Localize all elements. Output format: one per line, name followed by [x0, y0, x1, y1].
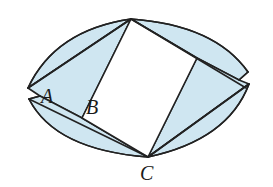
- label-B: B: [86, 96, 98, 118]
- geometry-figure: A B C: [0, 0, 273, 187]
- label-A: A: [39, 85, 54, 107]
- label-C: C: [140, 162, 154, 184]
